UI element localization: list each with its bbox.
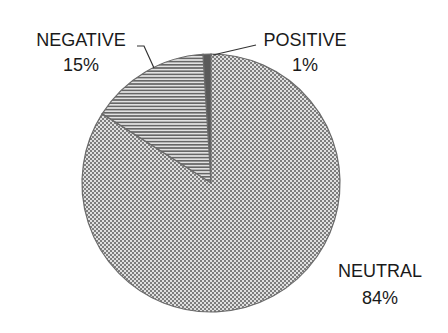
negative-leader-line: [137, 46, 154, 68]
label-positive-pct: 1%: [292, 55, 318, 75]
pie-slices: [82, 54, 340, 312]
label-neutral-name: NEUTRAL: [338, 261, 422, 281]
label-negative-pct: 15%: [63, 55, 99, 75]
positive-leader-line: [213, 45, 256, 55]
label-positive-name: POSITIVE: [263, 30, 346, 50]
label-negative-name: NEGATIVE: [36, 30, 126, 50]
label-neutral-pct: 84%: [362, 288, 398, 308]
pie-chart: NEGATIVE 15% POSITIVE 1% NEUTRAL 84%: [0, 0, 448, 333]
